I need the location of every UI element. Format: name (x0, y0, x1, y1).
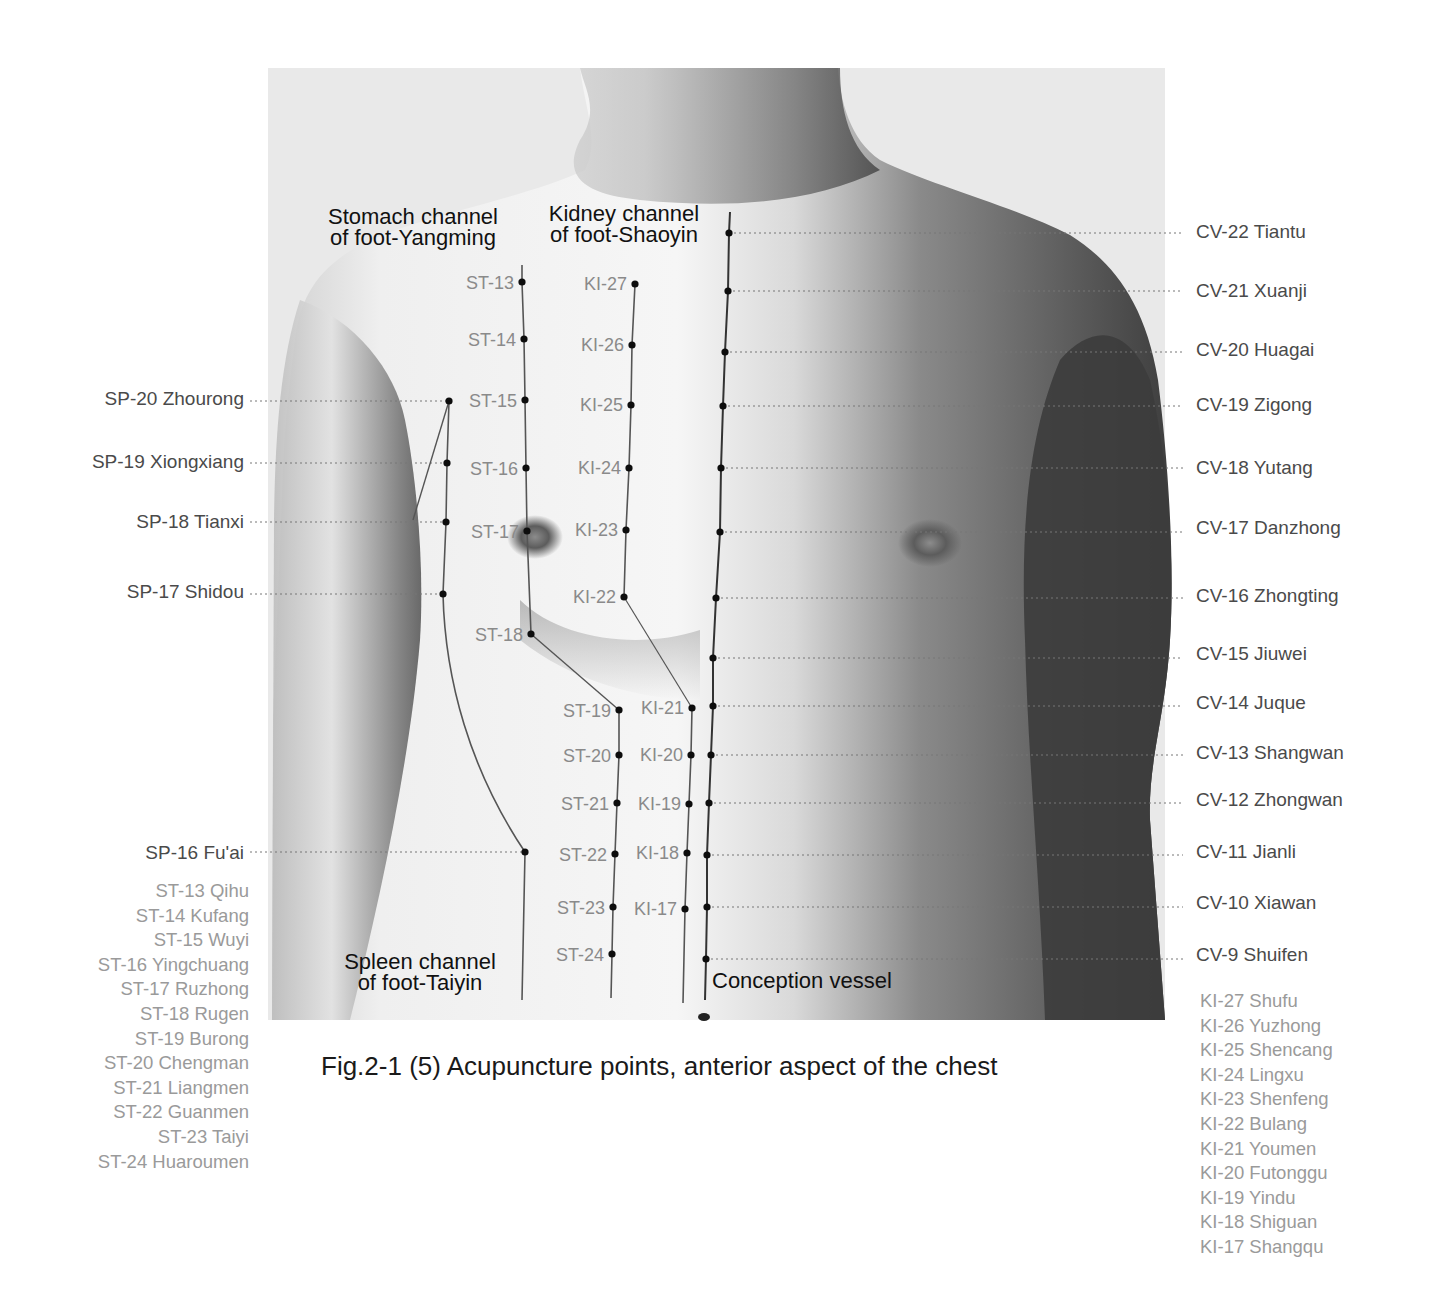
conception-point-label: CV-18 Yutang (1196, 458, 1313, 477)
stomach-point-dot (609, 903, 616, 910)
stomach-point-dot (520, 335, 527, 342)
spleen-title-line1: Spleen channel (320, 951, 520, 972)
stomach-point-label: ST-20 (563, 747, 611, 765)
kidney-point-label: KI-20 (640, 746, 683, 764)
stomach-legend-item: ST-21 Liangmen (98, 1076, 249, 1101)
conception-point-label: CV-9 Shuifen (1196, 945, 1308, 964)
stomach-legend-item: ST-24 Huaroumen (98, 1150, 249, 1175)
conception-point-label: CV-22 Tiantu (1196, 222, 1306, 241)
stomach-point-dot (613, 799, 620, 806)
stomach-legend-item: ST-19 Burong (98, 1027, 249, 1052)
spleen-point-dot (521, 848, 528, 855)
stomach-legend-item: ST-22 Guanmen (98, 1100, 249, 1125)
spleen-title-line2: of foot-Taiyin (320, 972, 520, 993)
stomach-point-dot (523, 527, 530, 534)
kidney-legend-item: KI-26 Yuzhong (1200, 1014, 1333, 1039)
spleen-point-dot (445, 397, 452, 404)
spleen-point-label: SP-18 Tianxi (136, 512, 244, 531)
conception-point-dot (705, 799, 712, 806)
kidney-point-label: KI-18 (636, 844, 679, 862)
conception-point-dot (717, 464, 724, 471)
stomach-legend-item: ST-17 Ruzhong (98, 977, 249, 1002)
kidney-title-line2: of foot-Shaoyin (527, 224, 721, 245)
kidney-point-dot (687, 751, 694, 758)
kidney-point-dot (625, 464, 632, 471)
kidney-point-dot (628, 341, 635, 348)
kidney-channel-title: Kidney channel of foot-Shaoyin (527, 203, 721, 245)
conception-point-dot (709, 702, 716, 709)
stomach-point-dot (615, 706, 622, 713)
kidney-legend-item: KI-25 Shencang (1200, 1038, 1333, 1063)
kidney-legend-item: KI-17 Shangqu (1200, 1235, 1333, 1260)
figure-caption: Fig.2-1 (5) Acupuncture points, anterior… (321, 1051, 997, 1082)
stomach-point-dot (521, 396, 528, 403)
conception-point-dot (719, 402, 726, 409)
kidney-point-label: KI-22 (573, 588, 616, 606)
conception-point-label: CV-13 Shangwan (1196, 743, 1344, 762)
kidney-legend: KI-27 ShufuKI-26 YuzhongKI-25 ShencangKI… (1200, 989, 1333, 1260)
stomach-legend: ST-13 QihuST-14 KufangST-15 WuyiST-16 Yi… (98, 879, 249, 1174)
conception-point-label: CV-19 Zigong (1196, 395, 1312, 414)
stomach-title-line1: Stomach channel (308, 206, 518, 227)
conception-point-dot (724, 287, 731, 294)
kidney-point-dot (685, 800, 692, 807)
spleen-point-label: SP-20 Zhourong (105, 389, 244, 408)
stomach-title-line2: of foot-Yangming (308, 227, 518, 248)
conception-point-dot (721, 348, 728, 355)
kidney-legend-item: KI-19 Yindu (1200, 1186, 1333, 1211)
stomach-point-label: ST-13 (466, 274, 514, 292)
stomach-point-label: ST-18 (475, 626, 523, 644)
spleen-channel-title: Spleen channel of foot-Taiyin (320, 951, 520, 993)
conception-point-dot (716, 528, 723, 535)
kidney-point-dot (631, 280, 638, 287)
acupuncture-figure: Stomach channel of foot-Yangming Kidney … (0, 0, 1430, 1308)
spleen-point-dot (439, 590, 446, 597)
conception-point-label: CV-17 Danzhong (1196, 518, 1341, 537)
stomach-point-label: ST-21 (561, 795, 609, 813)
stomach-point-label: ST-15 (469, 392, 517, 410)
stomach-point-label: ST-19 (563, 702, 611, 720)
conception-point-label: CV-20 Huagai (1196, 340, 1314, 359)
kidney-point-dot (683, 849, 690, 856)
conception-point-label: CV-15 Jiuwei (1196, 644, 1307, 663)
stomach-point-label: ST-17 (471, 523, 519, 541)
kidney-legend-item: KI-23 Shenfeng (1200, 1087, 1333, 1112)
right-nipple (898, 519, 962, 567)
stomach-legend-item: ST-16 Yingchuang (98, 953, 249, 978)
stomach-point-dot (522, 464, 529, 471)
kidney-point-dot (622, 526, 629, 533)
stomach-point-dot (608, 950, 615, 957)
stomach-point-dot (527, 630, 534, 637)
stomach-point-label: ST-14 (468, 331, 516, 349)
stomach-point-label: ST-22 (559, 846, 607, 864)
right-arm (1024, 335, 1172, 1020)
kidney-point-label: KI-26 (581, 336, 624, 354)
kidney-legend-item: KI-20 Futonggu (1200, 1161, 1333, 1186)
kidney-legend-item: KI-22 Bulang (1200, 1112, 1333, 1137)
conception-point-dot (703, 851, 710, 858)
conception-point-dot (725, 229, 732, 236)
kidney-legend-item: KI-27 Shufu (1200, 989, 1333, 1014)
kidney-point-dot (627, 401, 634, 408)
spleen-point-label: SP-16 Fu'ai (145, 843, 244, 862)
conception-point-dot (702, 955, 709, 962)
stomach-legend-item: ST-13 Qihu (98, 879, 249, 904)
stomach-point-label: ST-16 (470, 460, 518, 478)
navel (698, 1013, 710, 1021)
spleen-point-label: SP-17 Shidou (127, 582, 244, 601)
kidney-legend-item: KI-18 Shiguan (1200, 1210, 1333, 1235)
conception-point-label: CV-16 Zhongting (1196, 586, 1339, 605)
conception-point-label: CV-11 Jianli (1196, 842, 1296, 861)
stomach-point-dot (611, 850, 618, 857)
stomach-point-dot (615, 751, 622, 758)
kidney-point-label: KI-21 (641, 699, 684, 717)
stomach-point-label: ST-24 (556, 946, 604, 964)
stomach-point-dot (518, 278, 525, 285)
spleen-point-dot (442, 518, 449, 525)
kidney-point-dot (620, 593, 627, 600)
conception-point-label: CV-12 Zhongwan (1196, 790, 1343, 809)
kidney-point-dot (688, 704, 695, 711)
stomach-legend-item: ST-23 Taiyi (98, 1125, 249, 1150)
conception-vessel-title: Conception vessel (712, 970, 892, 991)
conception-point-dot (703, 903, 710, 910)
